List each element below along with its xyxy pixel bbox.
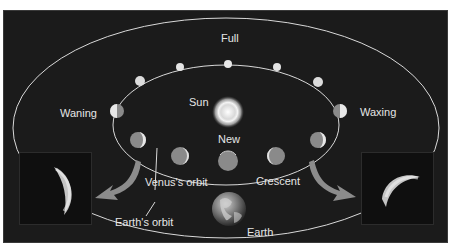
venus-gibbous-icon xyxy=(313,77,323,87)
right-arrow-icon xyxy=(309,160,356,201)
earth-icon xyxy=(212,192,246,226)
left-arrow-icon xyxy=(95,160,141,200)
waxing-label: Waxing xyxy=(360,107,396,118)
venus-gibbous-icon xyxy=(135,76,145,86)
waxing-crescent-photo xyxy=(361,152,434,225)
sun-icon xyxy=(212,96,244,128)
earth-orbit-label: Earth's orbit xyxy=(115,217,173,228)
venus-gibbous-icon xyxy=(273,63,281,71)
earth-label: Earth xyxy=(247,227,273,238)
venus-gibbous-icon xyxy=(176,63,184,71)
waning-label: Waning xyxy=(60,108,97,119)
venus-orbit-label: Venus's orbit xyxy=(145,177,208,188)
new-label: New xyxy=(218,134,240,145)
crescent-label: Crescent xyxy=(256,176,300,187)
waning-crescent-photo xyxy=(19,152,92,225)
full-label: Full xyxy=(221,33,239,44)
sun-label: Sun xyxy=(189,97,209,108)
venus-full-icon xyxy=(224,60,232,68)
earth-orbit-pointer xyxy=(146,202,155,216)
